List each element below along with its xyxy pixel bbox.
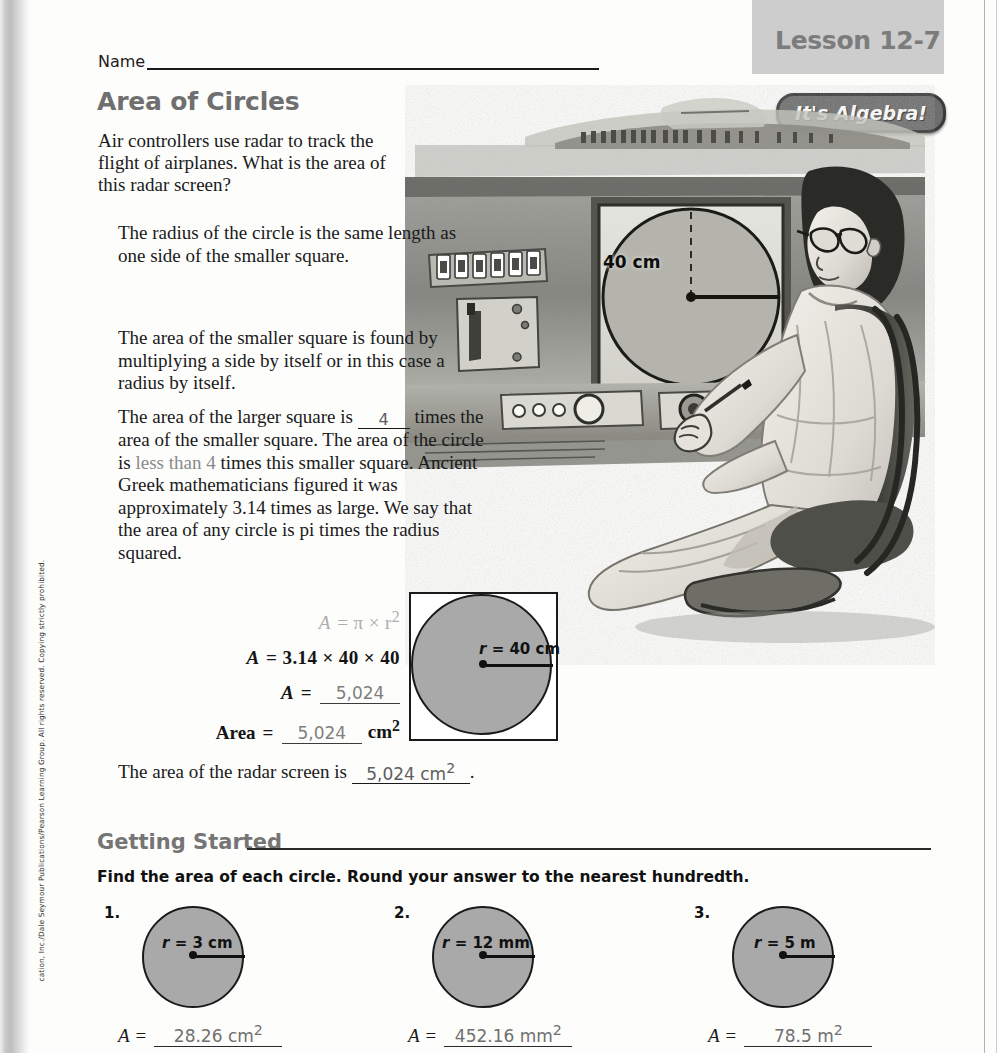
- exercise-answer-value: 452.16 mm: [455, 1026, 553, 1046]
- exercise-item: 2. r = 12 mm A = 452.16 mm2: [390, 900, 690, 1053]
- page-right-rule: [984, 0, 985, 1053]
- exercise-answer-value: 78.5 m: [774, 1026, 834, 1046]
- exercise-equals: =: [136, 1025, 147, 1047]
- step-3-blank-fill[interactable]: 4: [358, 411, 410, 429]
- formula-row-1-rhs: = π × r2: [337, 608, 400, 634]
- formula-row-4-answer-blank[interactable]: 5,024: [282, 724, 362, 744]
- exercise-radius-value: = 12 mm: [455, 934, 530, 952]
- exercise-equals: =: [426, 1025, 437, 1047]
- getting-started-rule: [247, 848, 931, 850]
- exercise-number: 3.: [694, 904, 710, 922]
- exercise-radius-value: = 5 m: [767, 934, 816, 952]
- circle-in-square-diagram: r = 40 cm: [409, 592, 558, 741]
- exercise-equals: =: [726, 1025, 737, 1047]
- lesson-number-label: Lesson 12-7: [775, 26, 941, 55]
- exercise-radius-label: r = 12 mm: [442, 934, 530, 952]
- copyright-notice: cation, Inc./Dale Seymour Publications/P…: [37, 512, 46, 982]
- exercise-radius-value: = 3 cm: [175, 934, 233, 952]
- final-answer-sentence: The area of the radar screen is 5,024 cm…: [118, 760, 474, 784]
- its-algebra-badge: It's Algebra!: [776, 93, 946, 133]
- formula-row-1-lhs: A: [319, 612, 331, 634]
- name-input-rule[interactable]: [147, 68, 599, 70]
- final-answer-period: .: [470, 761, 475, 782]
- diagram-radius-label: r = 40 cm: [479, 640, 560, 658]
- diagram-radius-variable: r: [479, 640, 486, 658]
- formula-row-3-lhs: A: [281, 682, 294, 704]
- final-answer-value: 5,024 cm: [366, 764, 446, 784]
- formula-row-3-answer-blank[interactable]: 5,024: [320, 684, 400, 704]
- exercise-a-label: A: [708, 1025, 720, 1047]
- diagram-radius-value: = 40 cm: [492, 640, 560, 658]
- exercise-center-dot: [479, 951, 487, 959]
- exercise-radius-variable: r: [442, 934, 449, 952]
- exercise-radius-line: [193, 955, 245, 958]
- formula-row-3: A = 5,024: [150, 682, 400, 704]
- exercise-answer-blank[interactable]: 28.26 cm2: [154, 1020, 282, 1047]
- exercise-answer-blank[interactable]: 78.5 m2: [744, 1020, 872, 1047]
- exercise-answer-exponent: 2: [553, 1022, 562, 1038]
- worksheet-page: Lesson 12-7 It's Algebra! Name Area of C…: [0, 0, 999, 1053]
- name-label: Name: [98, 52, 145, 71]
- formula-row-4-unit-text: cm: [368, 722, 392, 743]
- exercise-number: 2.: [394, 904, 410, 922]
- exercise-radius-variable: r: [162, 934, 169, 952]
- exercise-radius-label: r = 3 cm: [162, 934, 233, 952]
- page-title: Area of Circles: [97, 87, 299, 116]
- exercise-center-dot: [779, 951, 787, 959]
- formula-row-1-rhs-text: = π × r: [337, 612, 391, 633]
- formula-row-3-equals: =: [301, 682, 312, 704]
- exercise-answer-exponent: 2: [834, 1022, 843, 1038]
- getting-started-heading: Getting Started: [97, 830, 282, 854]
- step-1-text: The radius of the circle is the same len…: [118, 222, 488, 267]
- exercise-answer-row: A = 452.16 mm2: [408, 1020, 572, 1047]
- exercise-answer-value: 28.26 cm: [174, 1026, 254, 1046]
- diagram-center-dot: [479, 660, 487, 668]
- step-3-text: The area of the larger square is 4 times…: [118, 406, 498, 564]
- exercise-item: 1. r = 3 cm A = 28.26 cm2: [100, 900, 400, 1053]
- formula-row-2: A = 3.14 × 40 × 40: [150, 647, 400, 669]
- formula-row-4-lhs: Area: [216, 722, 256, 744]
- formula-row-1: A = π × r2: [150, 608, 400, 634]
- step-3-inline-answer: less than 4: [135, 452, 215, 473]
- final-answer-exponent: 2: [446, 760, 455, 776]
- worked-example-formulas: A = π × r2 A = 3.14 × 40 × 40 A = 5,024 …: [150, 608, 400, 757]
- formula-row-1-exponent: 2: [392, 608, 400, 625]
- exercise-center-dot: [189, 951, 197, 959]
- page-right-rule-outer: [996, 0, 997, 1053]
- its-algebra-badge-label: It's Algebra!: [795, 102, 927, 124]
- getting-started-instruction: Find the area of each circle. Round your…: [97, 868, 749, 886]
- step-3-part-a: The area of the larger square is: [118, 406, 353, 427]
- exercise-item: 3. r = 5 m A = 78.5 m2: [690, 900, 990, 1053]
- step-2-text: The area of the smaller square is found …: [118, 327, 488, 395]
- diagram-radius-line: [483, 664, 553, 667]
- formula-row-4-unit: cm2: [368, 717, 400, 743]
- final-answer-blank[interactable]: 5,024 cm2: [352, 760, 470, 784]
- exercise-answer-row: A = 78.5 m2: [708, 1020, 872, 1047]
- exercise-answer-exponent: 2: [254, 1022, 263, 1038]
- formula-row-2-rhs: = 3.14 × 40 × 40: [266, 647, 400, 669]
- exercise-radius-variable: r: [754, 934, 761, 952]
- exercise-answer-blank[interactable]: 452.16 mm2: [444, 1020, 572, 1047]
- final-answer-prefix: The area of the radar screen is: [118, 761, 347, 782]
- exercise-radius-label: r = 5 m: [754, 934, 816, 952]
- exercise-a-label: A: [118, 1025, 130, 1047]
- exercise-radius-line: [783, 955, 835, 958]
- page-binding-shadow: [0, 0, 30, 1053]
- exercise-radius-line: [483, 955, 535, 958]
- exercise-answer-row: A = 28.26 cm2: [118, 1020, 282, 1047]
- formula-row-4-unit-exponent: 2: [392, 717, 400, 734]
- intro-paragraph: Air controllers use radar to track the f…: [98, 130, 408, 196]
- exercise-number: 1.: [104, 904, 120, 922]
- radar-measurement-label: 40 cm: [603, 252, 660, 272]
- formula-row-4-equals: =: [263, 722, 274, 744]
- formula-row-4: Area = 5,024 cm2: [150, 717, 400, 743]
- exercise-a-label: A: [408, 1025, 420, 1047]
- formula-row-2-lhs: A: [246, 647, 259, 669]
